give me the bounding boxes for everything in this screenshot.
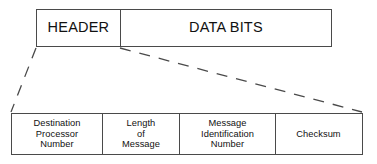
packet-field-data-bits-label: DATA BITS: [189, 20, 263, 36]
expansion-connector-left-line: [11, 48, 36, 112]
header-field-length-of-message: Length of Message: [102, 114, 179, 154]
packet-field-header-label: HEADER: [48, 20, 110, 36]
header-detail-frame: Destination Processor Number Length of M…: [11, 113, 363, 155]
header-field-message-identification-number-label: Message Identification Number: [201, 118, 254, 150]
header-field-checksum: Checksum: [275, 114, 361, 154]
packet-field-data-bits: DATA BITS: [120, 10, 331, 46]
header-field-destination-processor-number-label: Destination Processor Number: [33, 118, 80, 150]
packet-structure-diagram: HEADER DATA BITS Destination Processor N…: [0, 0, 377, 164]
packet-frame: HEADER DATA BITS: [36, 9, 332, 47]
expansion-connector-right-line: [120, 48, 362, 112]
header-field-message-identification-number: Message Identification Number: [179, 114, 275, 154]
packet-field-header: HEADER: [37, 10, 120, 46]
header-field-length-of-message-label: Length of Message: [122, 118, 160, 150]
header-field-destination-processor-number: Destination Processor Number: [12, 114, 102, 154]
header-field-checksum-label: Checksum: [296, 129, 340, 140]
